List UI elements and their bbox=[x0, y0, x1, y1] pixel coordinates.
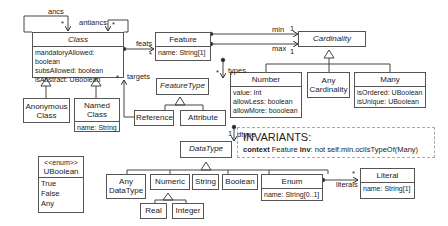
uboolean-name: UBoolean bbox=[40, 167, 82, 176]
numeric-name: Numeric bbox=[151, 175, 189, 188]
featuretype-box[interactable]: FeatureType bbox=[156, 78, 209, 95]
attr: subsAllowed: boolean bbox=[35, 66, 121, 75]
antiancs-label: antiancs bbox=[79, 19, 107, 27]
types-label: types bbox=[228, 67, 246, 75]
min-label: min bbox=[272, 26, 284, 34]
types-multiplicity: * bbox=[216, 69, 219, 77]
attr: isOrdered: UBoolean bbox=[357, 88, 423, 97]
uboolean-literals: True False Any bbox=[39, 177, 83, 210]
dtype-multiplicity: 1 bbox=[228, 130, 232, 138]
invariants-expression: context Feature inv: not self.min.oclIsT… bbox=[243, 145, 429, 154]
keyword-inv: inv bbox=[300, 145, 311, 154]
min-multiplicity: 1 bbox=[290, 25, 294, 33]
real-box[interactable]: Real bbox=[140, 203, 167, 219]
many-box[interactable]: Many isOrdered: UBoolean isUnique: UBool… bbox=[354, 72, 426, 108]
invariants-note: INVARIANTS: context Feature inv: not sel… bbox=[237, 127, 435, 158]
literals-multiplicity: * bbox=[352, 170, 355, 178]
cardinality-name: Cardinality bbox=[299, 32, 365, 45]
keyword-context: context bbox=[243, 145, 270, 154]
feats-label: feats bbox=[136, 40, 152, 48]
real-name: Real bbox=[141, 204, 166, 217]
ocl-expression: : not self.min.oclIsTypeOf(Many) bbox=[311, 145, 419, 154]
max-multiplicity: 1 bbox=[290, 48, 294, 56]
attr: name: String[1] bbox=[158, 48, 208, 57]
attribute-box[interactable]: Attribute bbox=[180, 110, 226, 126]
anonymous-class-box[interactable]: Anonymous Class bbox=[23, 98, 70, 123]
enum-literal: Any bbox=[41, 199, 81, 209]
literals-label: literals bbox=[336, 181, 358, 189]
enum-literal: True bbox=[41, 179, 81, 189]
any-datatype-name: Any DataType bbox=[107, 175, 145, 197]
attr: allowMore: booolean bbox=[233, 106, 299, 115]
dtype-label: dtype bbox=[237, 131, 255, 139]
boolean-box[interactable]: Boolean bbox=[222, 174, 258, 190]
named-class-name: Named Class bbox=[75, 99, 119, 121]
attr: name: String[1] bbox=[363, 184, 412, 193]
feats-multiplicity: * bbox=[149, 51, 152, 59]
literal-attributes: name: String[1] bbox=[361, 182, 414, 194]
class-attributes: mandatoryAllowed: boolean subsAllowed: b… bbox=[33, 46, 123, 85]
attr: name: String bbox=[77, 123, 117, 132]
featuretype-name: FeatureType bbox=[157, 79, 208, 92]
anonymous-class-name: Anonymous Class bbox=[24, 99, 69, 122]
class-name: Class bbox=[33, 33, 123, 46]
invariants-title: INVARIANTS: bbox=[243, 131, 429, 143]
enum-attributes: name: String[0..1] bbox=[262, 188, 322, 200]
feature-box[interactable]: Feature name: String[1] bbox=[155, 32, 211, 61]
boolean-name: Boolean bbox=[223, 175, 257, 188]
feature-attributes: name: String[1] bbox=[156, 46, 210, 58]
context-class: Feature bbox=[272, 145, 298, 154]
uboolean-header: <<enum>> UBoolean bbox=[39, 157, 83, 177]
attr: allowLess: boolean bbox=[233, 97, 299, 106]
attr: isUnique: UBoolean bbox=[357, 97, 423, 106]
number-box[interactable]: Number value: Int allowLess: boolean all… bbox=[230, 72, 302, 118]
reference-name: Reference bbox=[135, 111, 173, 124]
ancs-label: ancs bbox=[48, 8, 64, 16]
any-cardinality-box[interactable]: Any Cardinality bbox=[307, 72, 350, 98]
attribute-name: Attribute bbox=[181, 111, 225, 124]
named-class-box[interactable]: Named Class name: String bbox=[74, 98, 120, 132]
cardinality-box[interactable]: Cardinality bbox=[298, 31, 366, 47]
datatype-name: DataType bbox=[181, 142, 231, 155]
many-name: Many bbox=[355, 73, 425, 86]
literal-box[interactable]: Literal name: String[1] bbox=[360, 168, 415, 199]
attr: mandatoryAllowed: boolean bbox=[35, 48, 121, 66]
attr: isAbstract: UBoolean bbox=[35, 75, 121, 84]
datatype-box[interactable]: DataType bbox=[180, 141, 232, 158]
attr: name: String[0..1] bbox=[264, 190, 320, 199]
enum-literal: False bbox=[41, 189, 81, 199]
feature-name: Feature bbox=[156, 33, 210, 46]
class-box[interactable]: Class mandatoryAllowed: boolean subsAllo… bbox=[32, 32, 124, 78]
ancs-multiplicity: * bbox=[61, 20, 64, 28]
any-datatype-box[interactable]: Any DataType bbox=[106, 174, 146, 199]
uboolean-enum-box[interactable]: <<enum>> UBoolean True False Any bbox=[38, 156, 84, 213]
any-cardinality-name: Any Cardinality bbox=[308, 73, 349, 96]
named-class-attributes: name: String bbox=[75, 121, 119, 133]
string-box[interactable]: String bbox=[192, 174, 219, 190]
enum-name: Enum bbox=[262, 175, 322, 188]
string-name: String bbox=[193, 175, 218, 188]
literal-name: Literal bbox=[361, 169, 414, 182]
enum-box[interactable]: Enum name: String[0..1] bbox=[261, 174, 323, 201]
targets-multiplicity: * bbox=[116, 74, 119, 82]
enum-stereotype: <<enum>> bbox=[40, 158, 82, 167]
antiancs-multiplicity: * bbox=[112, 21, 115, 29]
number-attributes: value: Int allowLess: boolean allowMore:… bbox=[231, 86, 301, 116]
integer-box[interactable]: Integer bbox=[172, 203, 204, 219]
max-label: max bbox=[272, 45, 286, 53]
reference-box[interactable]: Reference bbox=[134, 110, 174, 126]
integer-name: Integer bbox=[173, 204, 203, 217]
numeric-box[interactable]: Numeric bbox=[150, 174, 190, 190]
attr: value: Int bbox=[233, 88, 299, 97]
many-attributes: isOrdered: UBoolean isUnique: UBoolean bbox=[355, 86, 425, 107]
targets-label: targets bbox=[127, 73, 150, 81]
